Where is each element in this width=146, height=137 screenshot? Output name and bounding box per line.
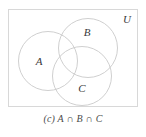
universe-label: U <box>123 13 132 25</box>
universe-rectangle <box>9 10 138 107</box>
set-label-c: C <box>78 82 86 94</box>
set-label-a: A <box>35 55 43 67</box>
venn-diagram-figure: A B C U (c) A ∩ B ∩ C <box>0 0 146 137</box>
figure-caption: (c) A ∩ B ∩ C <box>0 113 146 124</box>
set-label-b: B <box>84 26 91 38</box>
